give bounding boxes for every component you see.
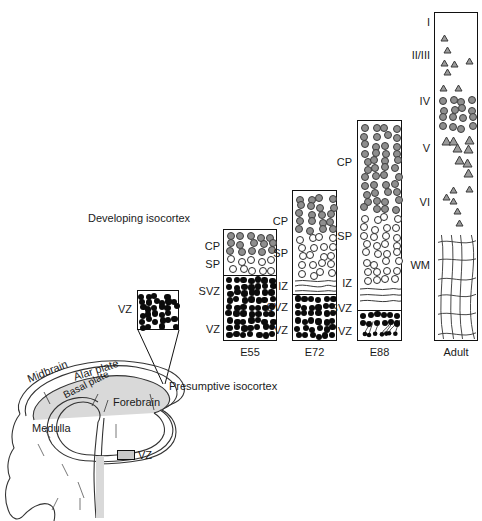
cell-black [226, 284, 232, 290]
cell-black [234, 277, 240, 283]
adult-layer-label-vi: VI [398, 197, 430, 208]
stage-label-e55: E55 [223, 347, 277, 358]
cell-open [258, 258, 266, 266]
e55-zone-label-svz: SVZ [183, 286, 220, 297]
cell-black [174, 303, 180, 309]
cell-black [233, 310, 239, 316]
cell-open [383, 224, 391, 232]
adult-layer-label-i: I [398, 17, 430, 28]
cell-gray [308, 217, 316, 225]
stage-label-e88: E88 [355, 347, 404, 358]
cell-black [247, 331, 253, 337]
cell-black [165, 310, 171, 316]
pyramidal-cell-triangle [452, 143, 463, 153]
cell-open [394, 215, 402, 223]
cell-open [298, 270, 306, 278]
pyramidal-cell-triangle [454, 84, 463, 92]
cell-gray [295, 209, 303, 217]
cell-open [327, 260, 335, 268]
adult-layer-label-ii-iii: II/III [398, 50, 430, 61]
pyramidal-cell-triangle [463, 144, 474, 154]
cell-gray [380, 124, 388, 132]
pyramidal-cell-triangle [443, 68, 452, 76]
cell-open [374, 250, 382, 258]
cell-black [226, 325, 232, 331]
cell-open [362, 248, 370, 256]
cell-gray [381, 205, 389, 213]
cell-black [315, 297, 321, 303]
pyramidal-cell-triangle [440, 34, 449, 42]
cell-open [373, 276, 381, 284]
cell-black [294, 326, 300, 332]
cell-gray [370, 156, 378, 164]
stage-label-adult: Adult [430, 347, 482, 358]
cell-gray [238, 248, 246, 256]
cell-gray [361, 150, 369, 158]
cell-open [296, 236, 304, 244]
cell-open [393, 248, 401, 256]
cell-black [295, 295, 301, 301]
cell-open [381, 275, 389, 283]
cell-black [152, 319, 158, 325]
cell-gray [371, 189, 379, 197]
pyramidal-cell-triangle [462, 158, 473, 168]
cell-gray [439, 97, 447, 105]
column-e88 [357, 120, 402, 341]
cell-open [318, 259, 326, 267]
cell-open [306, 251, 314, 259]
cell-gray [393, 125, 401, 133]
cell-gray [361, 182, 369, 190]
pyramidal-cell-triangle [449, 197, 458, 205]
vz-legend-swatch [117, 450, 135, 460]
cell-gray [458, 104, 466, 112]
cell-black [225, 310, 231, 316]
vz-inset-box [137, 290, 179, 330]
cell-black [233, 331, 239, 337]
cell-black [240, 277, 246, 283]
pyramidal-cell-triangle [455, 219, 464, 227]
cell-open [382, 232, 390, 240]
cell-black [241, 284, 247, 290]
cell-gray [315, 194, 323, 202]
cell-open [363, 240, 371, 248]
cell-black [330, 296, 336, 302]
adult-layer-label-v: V [398, 143, 430, 154]
cell-gray [361, 124, 369, 132]
cell-gray [372, 172, 380, 180]
cell-black [255, 317, 261, 323]
e72-zone-label-vz: VZ [256, 325, 288, 336]
cell-open [329, 243, 337, 251]
brain-label-presumptive-isocortex: Presumptive isocortex [169, 381, 277, 392]
cell-gray [373, 205, 381, 213]
e88-zone-label-vz: VZ [320, 326, 352, 337]
cell-gray [373, 133, 381, 141]
cell-gray [391, 164, 399, 172]
cell-open [360, 232, 368, 240]
cell-black [302, 332, 308, 338]
cell-gray [371, 164, 379, 172]
column-adult [434, 12, 478, 341]
pyramidal-cell-triangle [465, 185, 474, 193]
cell-black [240, 304, 246, 310]
cell-gray [370, 181, 378, 189]
white-matter-fibers [438, 235, 476, 339]
cell-open [328, 269, 336, 277]
cell-open [380, 213, 388, 221]
cell-gray [360, 203, 368, 211]
cell-black [295, 303, 301, 309]
cell-open [320, 243, 328, 251]
cell-gray [469, 113, 477, 121]
cell-black [315, 318, 321, 324]
cell-open [247, 256, 255, 264]
cell-black [165, 317, 171, 323]
cell-black [240, 332, 246, 338]
pyramidal-cell-triangle [465, 57, 474, 65]
cell-black [248, 278, 254, 284]
cell-black [308, 296, 314, 302]
cell-open [392, 224, 400, 232]
iz-fiber-lines [360, 287, 401, 309]
cell-open [298, 261, 306, 269]
e88-zone-label-cp: CP [320, 157, 352, 168]
cell-open [373, 268, 381, 276]
cell-gray [393, 134, 401, 142]
